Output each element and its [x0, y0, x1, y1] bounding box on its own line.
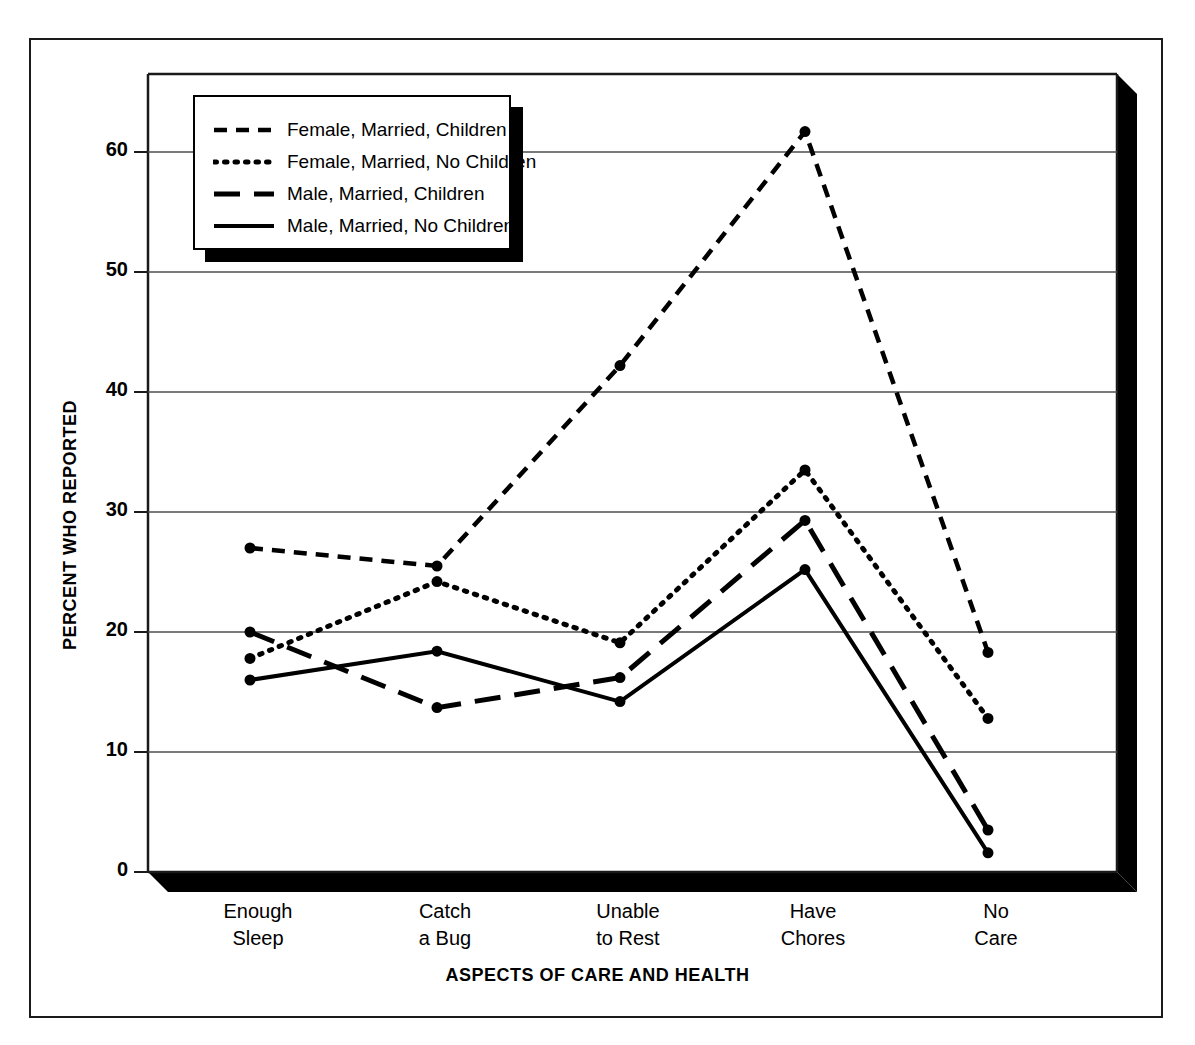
legend-item-label: Male, Married, Children [287, 183, 484, 205]
x-category-label: NoCare [906, 898, 1086, 952]
x-category-label-line: No [906, 898, 1086, 925]
legend-line-swatch [213, 216, 275, 236]
series-data-point [615, 360, 626, 371]
series-data-point [245, 675, 256, 686]
x-category-label: HaveChores [723, 898, 903, 952]
series-data-point [800, 126, 811, 137]
legend-line-swatch [213, 184, 275, 204]
y-tick-marks [134, 152, 148, 872]
y-tick-label: 0 [68, 858, 128, 881]
series-data-point [800, 515, 811, 526]
y-axis-title: PERCENT WHO REPORTED [60, 400, 81, 650]
legend-item: Male, Married, No Children [213, 209, 514, 243]
chart-legend: Female, Married, ChildrenFemale, Married… [193, 95, 511, 250]
legend-item: Male, Married, Children [213, 177, 484, 211]
plot-bottom-shadow [148, 872, 1137, 892]
series-data-point [800, 564, 811, 575]
x-category-label-line: Sleep [168, 925, 348, 952]
series-data-point [983, 647, 994, 658]
x-category-label-line: a Bug [355, 925, 535, 952]
series-data-point [615, 696, 626, 707]
x-category-label-line: Catch [355, 898, 535, 925]
legend-item-label: Female, Married, Children [287, 119, 507, 141]
series-data-point [245, 627, 256, 638]
series-data-point [245, 653, 256, 664]
y-tick-label: 10 [68, 738, 128, 761]
legend-item-label: Female, Married, No Children [287, 151, 536, 173]
y-tick-label: 60 [68, 138, 128, 161]
series-data-point [800, 465, 811, 476]
series-data-point [432, 646, 443, 657]
y-tick-label: 50 [68, 258, 128, 281]
x-category-label-line: Have [723, 898, 903, 925]
legend-line-swatch [213, 120, 275, 140]
series-data-point [983, 847, 994, 858]
series-data-point [615, 672, 626, 683]
series-data-point [245, 543, 256, 554]
x-category-label: Catcha Bug [355, 898, 535, 952]
y-tick-label: 40 [68, 378, 128, 401]
x-category-label: Unableto Rest [538, 898, 718, 952]
x-axis-title: ASPECTS OF CARE AND HEALTH [0, 965, 1195, 986]
series-data-point [983, 825, 994, 836]
x-category-label-line: Chores [723, 925, 903, 952]
series-data-point [432, 561, 443, 572]
series-data-point [615, 637, 626, 648]
legend-item: Female, Married, No Children [213, 145, 536, 179]
series-data-point [432, 576, 443, 587]
legend-item: Female, Married, Children [213, 113, 507, 147]
series-data-point [432, 702, 443, 713]
x-category-label: EnoughSleep [168, 898, 348, 952]
series-data-point [983, 713, 994, 724]
line-chart-canvas [0, 0, 1195, 1045]
legend-item-label: Male, Married, No Children [287, 215, 514, 237]
x-category-label-line: Care [906, 925, 1086, 952]
chart-figure: 0102030405060 EnoughSleepCatcha BugUnabl… [0, 0, 1195, 1045]
x-category-label-line: Unable [538, 898, 718, 925]
x-category-label-line: Enough [168, 898, 348, 925]
x-category-label-line: to Rest [538, 925, 718, 952]
legend-line-swatch [213, 152, 275, 172]
plot-right-shadow [1117, 74, 1137, 892]
